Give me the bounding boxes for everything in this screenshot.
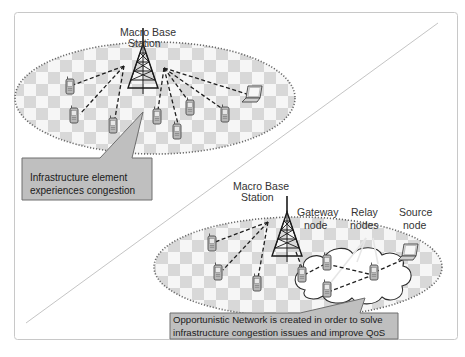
phone-icon <box>66 77 74 95</box>
phone-icon <box>253 274 261 292</box>
gateway-label-2: node <box>304 219 328 231</box>
top-callout-line-2: experiences congestion <box>30 184 135 197</box>
phone-icon <box>221 105 229 123</box>
relay-label-1: Relay <box>351 206 379 218</box>
relay-node-icon <box>370 263 378 281</box>
phone-icon <box>153 107 161 125</box>
top-callout-line-1: Infrastructure element <box>30 171 135 184</box>
phone-icon <box>70 106 78 124</box>
diagram-canvas: Macro Base Station <box>0 0 465 357</box>
bottom-callout-line-1: Opportunistic Network is created in orde… <box>173 313 385 326</box>
opportunistic-cloud <box>295 248 411 304</box>
relay-label-2: nodes <box>350 219 379 231</box>
phone-icon <box>109 116 117 134</box>
bottom-callout-line-2: infrastructure congestion issues and imp… <box>173 326 385 339</box>
relay-node-icon <box>323 253 331 271</box>
gateway-label-1: Gateway <box>297 206 339 218</box>
relay-node-icon <box>323 280 331 298</box>
source-label-1: Source <box>399 206 432 218</box>
bottom-tower-label-2: Station <box>241 191 274 203</box>
phone-icon <box>214 263 222 281</box>
source-label-2: node <box>403 219 427 231</box>
phone-icon <box>173 122 181 140</box>
top-tower-label-2: Station <box>128 37 161 49</box>
phone-icon <box>208 234 216 252</box>
bottom-callout-text: Opportunistic Network is created in orde… <box>173 313 385 339</box>
phone-icon <box>186 98 194 116</box>
top-callout-text: Infrastructure element experiences conge… <box>30 171 135 197</box>
gateway-node-icon <box>298 265 306 283</box>
